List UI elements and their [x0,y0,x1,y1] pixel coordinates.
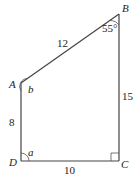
angle-label-a-b: b [28,83,34,95]
side-label-da: 8 [9,116,15,128]
side-label-bc: 15 [122,90,134,102]
angle-label-d-a: a [28,146,34,158]
right-angle-c-mark [111,153,119,161]
vertex-label-b: B [122,2,129,14]
side-label-cd: 10 [64,164,76,176]
quadrilateral-diagram: B A D C 12 15 10 8 55° b a [0,0,140,182]
angle-label-b: 55° [102,22,117,34]
vertex-label-d: D [8,156,17,168]
vertex-label-a: A [8,78,16,90]
vertex-label-c: C [121,158,129,170]
side-label-ab: 12 [57,37,68,49]
